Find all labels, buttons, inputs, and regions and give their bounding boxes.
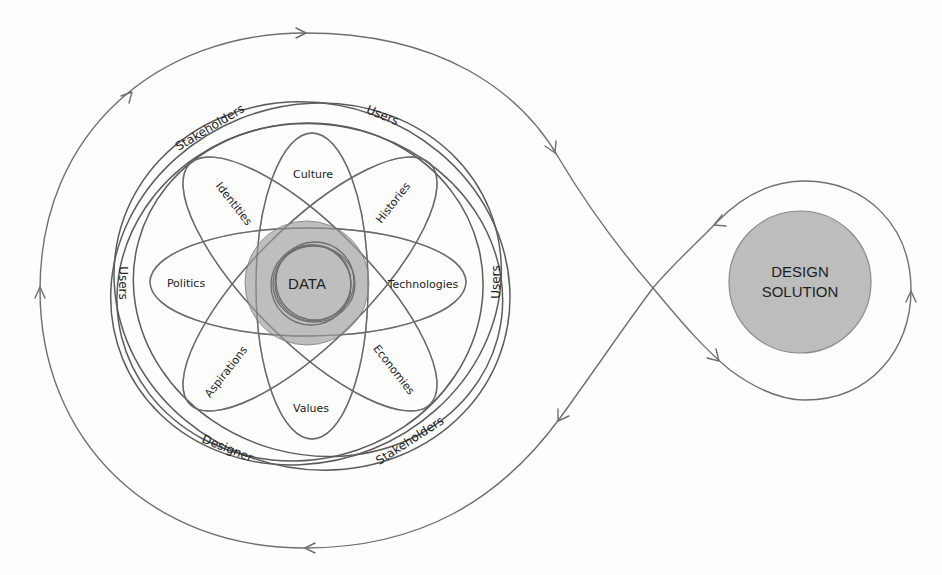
diagram-canvas: DATA Culture Histories Technologies Econ… bbox=[0, 0, 942, 575]
ring-label-users-top: Users bbox=[364, 103, 400, 129]
design-solution: DESIGN SOLUTION bbox=[729, 211, 871, 353]
design-process-diagram: DATA Culture Histories Technologies Econ… bbox=[0, 0, 942, 575]
petal-label-values: Values bbox=[293, 402, 329, 415]
design-solution-label-line1: DESIGN bbox=[771, 263, 829, 280]
petal-label-aspirations: Aspirations bbox=[202, 343, 250, 400]
petal-label-culture: Culture bbox=[293, 168, 333, 181]
ring-label-stakeholders-top: Stakeholders bbox=[173, 101, 247, 153]
ring-label-users-right: Users bbox=[489, 265, 503, 299]
arrow-down-left-icon bbox=[714, 215, 726, 226]
data-label: DATA bbox=[288, 275, 326, 292]
petal-label-politics: Politics bbox=[167, 277, 206, 290]
ring-label-designer: Designer bbox=[200, 432, 255, 465]
ring-label-stakeholders-bottom: Stakeholders bbox=[373, 414, 446, 468]
design-solution-circle bbox=[729, 211, 871, 353]
design-solution-label-line2: SOLUTION bbox=[762, 283, 839, 300]
petal-label-histories: Histories bbox=[373, 180, 413, 226]
petal-label-technologies: Technologies bbox=[387, 278, 459, 291]
petal-label-economies: Economies bbox=[370, 342, 417, 397]
petal-label-identities: Identities bbox=[213, 180, 255, 229]
ring-label-users-left: Users bbox=[116, 266, 130, 300]
